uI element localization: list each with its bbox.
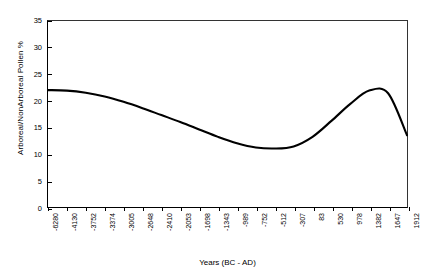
x-tick-label-text: -1343 [223, 213, 231, 231]
x-tick-mark [67, 207, 68, 211]
x-tick-label-text: 1382 [375, 213, 383, 229]
x-tick-mark [181, 207, 182, 211]
x-tick-mark [371, 207, 372, 211]
x-tick-label-text: -307 [299, 213, 307, 227]
x-tick-label-text: -2053 [185, 213, 193, 231]
x-tick-label: 1912 [413, 197, 421, 213]
y-tick-label: 15 [34, 123, 42, 132]
x-tick-mark [276, 207, 277, 211]
x-tick-mark [48, 207, 49, 211]
x-tick-mark [314, 207, 315, 211]
x-tick-mark [295, 207, 296, 211]
x-tick-label-text: -1698 [204, 213, 212, 231]
x-tick-mark [143, 207, 144, 211]
x-tick-label-text: -4130 [71, 213, 79, 231]
x-tick-mark [409, 207, 410, 211]
x-tick-label-text: 978 [356, 213, 364, 225]
x-tick-mark [105, 207, 106, 211]
x-tick-label-text: 1647 [394, 213, 402, 229]
y-tick-label: 5 [38, 177, 42, 186]
x-axis-title: Years (BC - AD) [47, 258, 408, 267]
x-tick-mark [200, 207, 201, 211]
plot-area: 05101520253035 -6280-4130-3752-3374-3005… [47, 20, 408, 208]
x-tick-mark [352, 207, 353, 211]
y-tick-label: 30 [34, 43, 42, 52]
y-axis-title: Arboreal/NonArboreal Pollen % [14, 0, 28, 203]
x-tick-mark [162, 207, 163, 211]
x-tick-mark [333, 207, 334, 211]
y-tick-label: 25 [34, 70, 42, 79]
x-tick-mark [124, 207, 125, 211]
x-tick-label-text: -3374 [109, 213, 117, 231]
x-tick-label-text: -512 [280, 213, 288, 227]
x-tick-label-text: -989 [242, 213, 250, 227]
data-line-series [48, 21, 407, 207]
y-tick-label: 20 [34, 97, 42, 106]
x-tick-label-text: -2648 [147, 213, 155, 231]
chart-figure: Arboreal/NonArboreal Pollen % 0510152025… [0, 0, 437, 278]
x-tick-label-text: -2410 [166, 213, 174, 231]
x-tick-mark [219, 207, 220, 211]
y-tick-label: 10 [34, 150, 42, 159]
x-tick-mark [390, 207, 391, 211]
y-tick-label: 35 [34, 16, 42, 25]
x-tick-label-text: 530 [337, 213, 345, 225]
x-tick-label-text: 1912 [413, 213, 421, 229]
pollen-curve [48, 88, 407, 148]
y-tick-label: 0 [38, 204, 42, 213]
x-tick-mark [257, 207, 258, 211]
x-tick-label-text: 83 [318, 213, 326, 221]
x-tick-label-text: -3752 [90, 213, 98, 231]
x-tick-label-text: -752 [261, 213, 269, 227]
x-tick-mark [238, 207, 239, 211]
x-tick-label-text: -6280 [52, 213, 60, 231]
x-tick-mark [86, 207, 87, 211]
x-tick-label-text: -3005 [128, 213, 136, 231]
